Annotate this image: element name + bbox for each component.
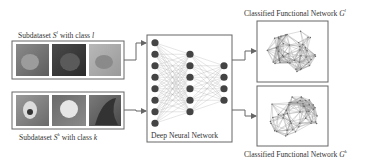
subdataset-bottom-box [12, 92, 124, 129]
dnn-box [147, 35, 232, 142]
neuron-node [186, 85, 193, 92]
neuron-node [186, 97, 193, 104]
neuron-node [220, 85, 227, 92]
network-top-box [257, 21, 328, 82]
neuron-node [220, 74, 227, 81]
neuron-node [151, 39, 158, 46]
network-top-label: Classified Functional Network Gl [244, 8, 346, 18]
neuron-node [220, 62, 227, 69]
dnn-label: Deep Neural Network [151, 131, 218, 140]
subdataset-top-box [12, 41, 124, 79]
network-bottom-label: Classified Functional Network Gk [244, 149, 347, 159]
neuron-node [151, 51, 158, 58]
output-arrows [232, 51, 256, 116]
input-arrows [124, 43, 146, 111]
subdataset-bottom-label: Subdataset Sk with class k [19, 132, 97, 142]
neuron-node [151, 85, 158, 92]
neuron-node [220, 97, 227, 104]
neuron-node [186, 62, 193, 69]
neuron-node [186, 108, 193, 115]
subdataset-top-label: Subdataset Sl with class l [18, 30, 94, 40]
neuron-node [186, 51, 193, 58]
neuron-node [151, 62, 158, 69]
network-bottom-box [257, 86, 328, 146]
neuron-node [151, 120, 158, 127]
neuron-node [151, 97, 158, 104]
neuron-node [151, 108, 158, 115]
neuron-node [151, 74, 158, 81]
neuron-node [186, 74, 193, 81]
